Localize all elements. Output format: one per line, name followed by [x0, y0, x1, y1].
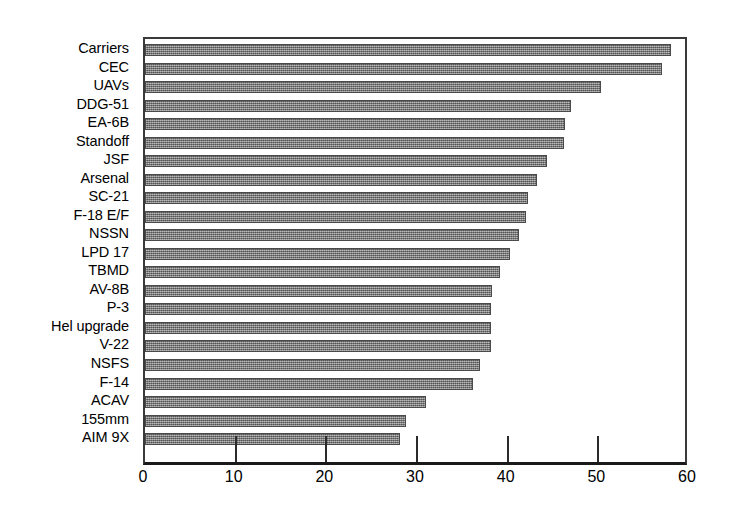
y-axis-category-label: EA-6B — [88, 113, 129, 132]
y-axis-category-label: SC-21 — [88, 187, 129, 206]
bar-slot — [145, 375, 687, 394]
y-axis-category-label: Hel upgrade — [51, 317, 129, 336]
y-axis-category-label: P-3 — [107, 298, 129, 317]
bar — [145, 266, 500, 278]
y-axis-category-label: F-18 E/F — [73, 206, 129, 225]
bar — [145, 340, 491, 352]
bar — [145, 81, 601, 93]
bar-slot — [145, 115, 687, 134]
bar-slot — [145, 189, 687, 208]
bars-layer — [145, 39, 685, 462]
bar — [145, 155, 547, 167]
x-axis-tick-label: 50 — [587, 468, 605, 486]
bar-slot — [145, 152, 687, 171]
y-axis-category-labels: CarriersCECUAVsDDG-51EA-6BStandoffJSFArs… — [0, 37, 136, 465]
y-axis-category-label: ACAV — [91, 391, 129, 410]
bar — [145, 285, 492, 297]
y-axis-category-label: UAVs — [93, 76, 129, 95]
bar-slot — [145, 60, 687, 79]
y-axis-category-label: V-22 — [100, 335, 129, 354]
y-axis-category-label: 155mm — [81, 410, 129, 429]
y-axis-category-label: Arsenal — [81, 169, 129, 188]
x-axis-tick-label: 30 — [406, 468, 424, 486]
y-axis-category-label: JSF — [104, 150, 129, 169]
bar — [145, 211, 526, 223]
x-axis-tick-label: 10 — [225, 468, 243, 486]
bar — [145, 248, 510, 260]
bar — [145, 396, 426, 408]
bar-slot — [145, 134, 687, 153]
bar — [145, 100, 571, 112]
bar — [145, 303, 491, 315]
x-axis-tick-mark — [597, 436, 599, 462]
plot-area — [143, 37, 687, 465]
bar-slot — [145, 300, 687, 319]
bar — [145, 229, 519, 241]
bar — [145, 192, 528, 204]
y-axis-category-label: DDG-51 — [76, 95, 129, 114]
y-axis-category-label: Standoff — [76, 132, 129, 151]
bar-slot — [145, 319, 687, 338]
x-axis-tick-label: 0 — [139, 468, 148, 486]
y-axis-category-label: AIM 9X — [82, 428, 129, 447]
bar-slot — [145, 208, 687, 227]
bar-slot — [145, 97, 687, 116]
bar-slot — [145, 226, 687, 245]
bar — [145, 415, 406, 427]
bar — [145, 137, 564, 149]
y-axis-category-label: LPD 17 — [81, 243, 129, 262]
y-axis-category-label: Carriers — [78, 39, 129, 58]
bar-slot — [145, 78, 687, 97]
bar — [145, 174, 537, 186]
bar — [145, 44, 671, 56]
bar-slot — [145, 412, 687, 431]
x-axis-tick-mark — [235, 436, 237, 462]
bar-slot — [145, 356, 687, 375]
x-axis-tick-mark — [507, 436, 509, 462]
bar-chart: CarriersCECUAVsDDG-51EA-6BStandoffJSFArs… — [0, 0, 730, 523]
bar — [145, 433, 400, 445]
x-axis-tick-mark — [416, 436, 418, 462]
y-axis-category-label: TBMD — [88, 261, 129, 280]
x-axis-tick-label: 60 — [678, 468, 696, 486]
y-axis-category-label: F-14 — [100, 373, 129, 392]
bar — [145, 359, 480, 371]
bar-slot — [145, 41, 687, 60]
x-axis-tick-labels: 0102030405060 — [143, 468, 687, 498]
bar — [145, 322, 491, 334]
bar-slot — [145, 171, 687, 190]
bar — [145, 378, 473, 390]
bar — [145, 118, 565, 130]
x-axis-tick-label: 20 — [315, 468, 333, 486]
bar-slot — [145, 337, 687, 356]
bar-slot — [145, 282, 687, 301]
y-axis-category-label: CEC — [99, 58, 129, 77]
x-axis-tick-label: 40 — [497, 468, 515, 486]
bar-slot — [145, 393, 687, 412]
y-axis-category-label: NSFS — [91, 354, 129, 373]
bar-slot — [145, 245, 687, 264]
x-axis-tick-mark — [325, 436, 327, 462]
bar — [145, 63, 662, 75]
y-axis-category-label: AV-8B — [89, 280, 129, 299]
y-axis-category-label: NSSN — [89, 224, 129, 243]
bar-slot — [145, 263, 687, 282]
